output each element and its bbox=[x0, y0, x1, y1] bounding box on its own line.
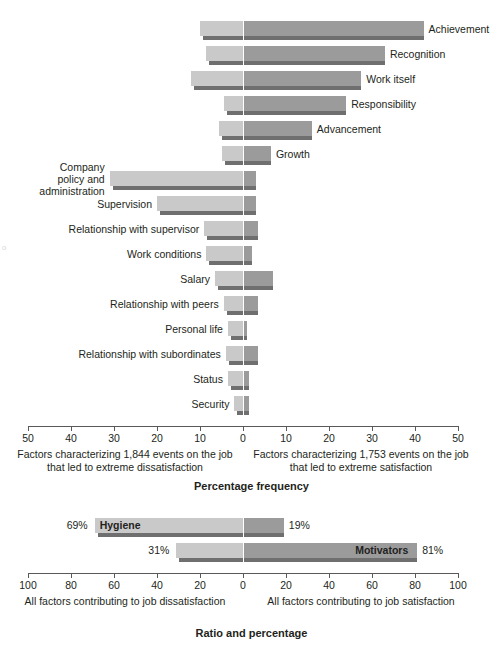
bar-category-label: Advancement bbox=[317, 123, 503, 135]
bar-right-percent-label: 19% bbox=[289, 519, 310, 531]
chart-bar-row: Personal life bbox=[0, 318, 503, 343]
axis-tick bbox=[157, 573, 158, 578]
bar-category-label: Status bbox=[0, 373, 223, 385]
bar-dissatisfaction bbox=[219, 121, 243, 136]
bar-category-label: Relationship with subordinates bbox=[0, 348, 221, 360]
ratio-and-percentage-chart: Hygiene69%19%Motivators31%81% 1008060402… bbox=[0, 515, 503, 565]
axis-tick-label: 40 bbox=[137, 579, 177, 591]
bar-dissatisfaction bbox=[224, 96, 243, 111]
bar-left-percent-label: 31% bbox=[148, 544, 169, 556]
axis-tick bbox=[458, 426, 459, 431]
bar-shadow bbox=[222, 136, 311, 140]
axis-tick-label: 20 bbox=[137, 432, 177, 444]
bar-shadow bbox=[209, 261, 251, 265]
axis-tick-label: 20 bbox=[180, 579, 220, 591]
bar-category-label: Work itself bbox=[366, 73, 503, 85]
bar-satisfaction bbox=[243, 21, 424, 36]
axis-tick-label: 40 bbox=[309, 579, 349, 591]
zero-divider bbox=[243, 221, 244, 240]
zero-divider bbox=[243, 171, 244, 190]
axis-tick bbox=[114, 426, 115, 431]
axis-tick bbox=[243, 426, 244, 431]
axis-tick-label: 60 bbox=[94, 579, 134, 591]
bar-dissatisfaction bbox=[228, 321, 243, 336]
bar-category-label: Relationship with peers bbox=[0, 298, 219, 310]
bar-satisfaction bbox=[243, 271, 273, 286]
bar-shadow bbox=[207, 236, 258, 240]
axis-tick-label: 10 bbox=[180, 432, 220, 444]
bar-shadow bbox=[98, 533, 284, 537]
axis-tick bbox=[415, 573, 416, 578]
axis-tick-label: 30 bbox=[352, 432, 392, 444]
chart-bar-row: Hygiene69%19% bbox=[0, 515, 503, 540]
bar-shadow bbox=[160, 211, 256, 215]
axis-tick bbox=[458, 573, 459, 578]
chart-bar-row: Work conditions bbox=[0, 243, 503, 268]
percentage-frequency-chart: AchievementRecognitionWork itselfRespons… bbox=[0, 18, 503, 418]
zero-divider bbox=[243, 246, 244, 265]
bar-category-label: Personal life bbox=[0, 323, 223, 335]
axis-tick bbox=[329, 426, 330, 431]
bar-dissatisfaction bbox=[200, 21, 243, 36]
zero-divider bbox=[243, 321, 244, 340]
axis-tick bbox=[243, 573, 244, 578]
chart-bar-row: Relationship with subordinates bbox=[0, 343, 503, 368]
bar-satisfaction bbox=[243, 46, 385, 61]
axis-tick bbox=[286, 426, 287, 431]
zero-divider bbox=[243, 396, 244, 415]
axis-tick bbox=[28, 573, 29, 578]
bar-category-label: Security bbox=[0, 398, 229, 410]
chart-bar-row: Relationship with supervisor bbox=[0, 218, 503, 243]
axis-tick bbox=[372, 426, 373, 431]
bar-satisfaction bbox=[243, 518, 284, 533]
zero-divider bbox=[243, 296, 244, 315]
bar-satisfaction bbox=[243, 196, 256, 211]
bar-shadow bbox=[218, 286, 273, 290]
bar-right-percent-label: 81% bbox=[422, 544, 443, 556]
axis-tick-label: 0 bbox=[223, 432, 263, 444]
bar-category-label: Motivators bbox=[355, 544, 408, 556]
bar-satisfaction bbox=[243, 296, 258, 311]
bar-satisfaction bbox=[243, 221, 258, 236]
bar-category-label: Hygiene bbox=[100, 519, 141, 531]
bar-shadow bbox=[179, 558, 417, 562]
bar-category-label: Company policy and administration bbox=[0, 161, 105, 197]
bar-shadow bbox=[203, 36, 424, 40]
bottom-chart-axis-title: Ratio and percentage bbox=[0, 627, 503, 639]
axis-tick bbox=[286, 573, 287, 578]
bar-category-label: Recognition bbox=[390, 48, 503, 60]
axis-tick-label: 20 bbox=[266, 579, 306, 591]
bar-satisfaction bbox=[243, 246, 252, 261]
top-chart-right-caption: Factors characterizing 1,753 events on t… bbox=[246, 448, 476, 474]
zero-divider bbox=[243, 543, 244, 562]
axis-tick-label: 100 bbox=[438, 579, 478, 591]
top-chart-rows: AchievementRecognitionWork itselfRespons… bbox=[0, 18, 503, 418]
bar-satisfaction bbox=[243, 71, 361, 86]
zero-divider bbox=[243, 146, 244, 165]
axis-tick bbox=[329, 573, 330, 578]
axis-tick-label: 0 bbox=[223, 579, 263, 591]
axis-tick-label: 80 bbox=[51, 579, 91, 591]
axis-tick bbox=[157, 426, 158, 431]
axis-tick-label: 40 bbox=[395, 432, 435, 444]
bar-category-label: Responsibility bbox=[351, 98, 503, 110]
bar-category-label: Salary bbox=[0, 273, 210, 285]
bar-satisfaction bbox=[243, 146, 271, 161]
bar-dissatisfaction bbox=[110, 171, 243, 186]
bar-category-label: Supervision bbox=[0, 198, 152, 210]
bar-category-label: Work conditions bbox=[0, 248, 201, 260]
axis-tick-label: 100 bbox=[8, 579, 48, 591]
bar-dissatisfaction bbox=[226, 346, 243, 361]
axis-tick-label: 10 bbox=[266, 432, 306, 444]
bar-dissatisfaction bbox=[234, 396, 243, 411]
axis-tick bbox=[200, 573, 201, 578]
axis-tick-label: 60 bbox=[352, 579, 392, 591]
bar-category-label: Growth bbox=[276, 148, 496, 160]
bar-satisfaction bbox=[243, 121, 312, 136]
chart-bar-row: Relationship with peers bbox=[0, 293, 503, 318]
chart-bar-row: Work itself bbox=[0, 68, 503, 93]
chart-bar-row: Status bbox=[0, 368, 503, 393]
axis-tick bbox=[28, 426, 29, 431]
axis-tick bbox=[114, 573, 115, 578]
chart-bar-row: Salary bbox=[0, 268, 503, 293]
